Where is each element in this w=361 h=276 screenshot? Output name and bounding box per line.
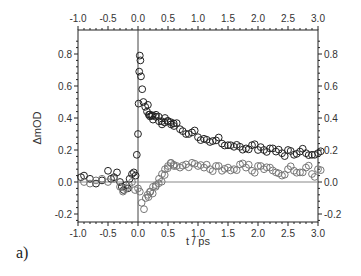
data-point bbox=[133, 151, 140, 158]
y-tick-label-right: 0.4 bbox=[324, 113, 338, 124]
x-tick-label-top: 0.0 bbox=[131, 13, 145, 24]
y-tick-label-left: 0.8 bbox=[58, 49, 72, 60]
x-tick-label-top: 2.0 bbox=[251, 13, 265, 24]
x-tick-label-top: 3.0 bbox=[311, 13, 325, 24]
data-point bbox=[299, 145, 306, 152]
panel-label: a) bbox=[16, 244, 28, 262]
x-tick-label-top: 2.5 bbox=[281, 13, 295, 24]
y-tick-label-left: -0.2 bbox=[55, 209, 73, 220]
x-tick-label-top: -0.5 bbox=[99, 13, 117, 24]
x-tick-label-bottom: 2.5 bbox=[281, 228, 295, 239]
x-tick-label-bottom: 1.5 bbox=[221, 228, 235, 239]
x-tick-label-bottom: -0.5 bbox=[99, 228, 117, 239]
y-tick-label-right: 0.6 bbox=[324, 81, 338, 92]
data-points bbox=[78, 52, 325, 212]
y-axis-label: ΔmOD bbox=[31, 111, 43, 144]
x-tick-label-bottom: 3.0 bbox=[311, 228, 325, 239]
y-tick-label-right: 0.0 bbox=[324, 177, 338, 188]
y-tick-label-left: 0.6 bbox=[58, 81, 72, 92]
x-tick-label-top: -1.0 bbox=[69, 13, 87, 24]
y-tick-label-left: 0.4 bbox=[58, 113, 72, 124]
x-tick-label-top: 1.5 bbox=[221, 13, 235, 24]
x-axis-label: t / ps bbox=[186, 235, 210, 247]
series-series-2 bbox=[81, 159, 325, 212]
x-tick-label-bottom: -1.0 bbox=[69, 228, 87, 239]
x-tick-label-bottom: 0.0 bbox=[131, 228, 145, 239]
data-point bbox=[139, 86, 146, 93]
x-tick-label-top: 0.5 bbox=[161, 13, 175, 24]
data-point bbox=[309, 171, 316, 178]
x-tick-label-bottom: 0.5 bbox=[161, 228, 175, 239]
y-tick-label-right: 0.2 bbox=[324, 145, 338, 156]
scatter-chart: -1.0-1.0-0.5-0.50.00.00.50.51.01.01.51.5… bbox=[0, 0, 361, 276]
y-tick-label-left: 0.0 bbox=[58, 177, 72, 188]
data-point bbox=[105, 167, 112, 174]
data-point bbox=[287, 163, 294, 170]
x-tick-label-bottom: 2.0 bbox=[251, 228, 265, 239]
data-point bbox=[311, 173, 318, 180]
y-tick-label-right: -0.2 bbox=[324, 209, 342, 220]
data-point bbox=[141, 206, 148, 213]
axes: -1.0-1.0-0.5-0.50.00.00.50.51.01.01.51.5… bbox=[55, 13, 342, 239]
plot-frame bbox=[78, 30, 318, 222]
y-tick-label-left: 0.2 bbox=[58, 145, 72, 156]
x-tick-label-top: 1.0 bbox=[191, 13, 205, 24]
y-tick-label-right: 0.8 bbox=[324, 49, 338, 60]
